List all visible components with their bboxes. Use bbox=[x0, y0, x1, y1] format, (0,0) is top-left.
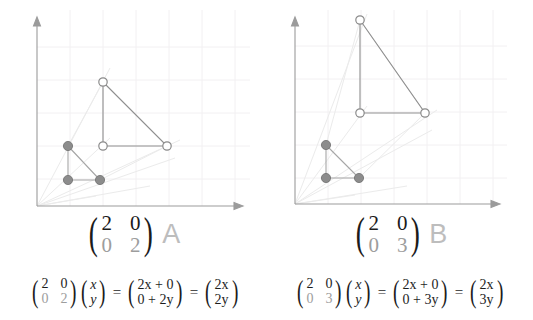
figure-canvas: ( 2 0 0 2 ) A bbox=[0, 0, 533, 320]
paren-close: ) bbox=[144, 217, 153, 251]
paren-close: ) bbox=[364, 280, 370, 304]
equation-B-matrix: 2 0 0 3 bbox=[305, 277, 333, 306]
equals-sign: = bbox=[455, 284, 463, 301]
matrix-B-letter: B bbox=[429, 219, 447, 250]
equation-A-matrix: 2 0 0 2 bbox=[40, 277, 68, 306]
transformed-vertex bbox=[99, 142, 107, 150]
matrix-A: ( 2 0 0 2 ) A bbox=[86, 212, 180, 256]
projection-rays-B bbox=[295, 14, 437, 204]
eqB-result2-top: 2x bbox=[480, 277, 494, 292]
paren-close: ) bbox=[335, 280, 341, 304]
eqB-result1-top: 2x + 0 bbox=[402, 277, 438, 292]
paren-close: ) bbox=[99, 280, 105, 304]
transformed-vertex bbox=[421, 109, 429, 117]
eqB-result2-bottom: 3y bbox=[480, 292, 494, 307]
matrix-B-b: 0 bbox=[397, 212, 408, 234]
paren-open: ( bbox=[32, 280, 38, 304]
equation-A-vector: x y bbox=[89, 277, 97, 307]
panel-transformation-A: ( 2 0 0 2 ) A bbox=[0, 0, 266, 265]
equation-A: ( 2 0 0 2 ) ( x y ) = ( 2x + 0 0 + 2y ) … bbox=[2, 266, 268, 318]
eqB-vector-bottom: y bbox=[355, 292, 361, 307]
paren-close: ) bbox=[231, 280, 237, 304]
panel-transformation-B: ( 2 0 0 3 ) B bbox=[267, 0, 533, 265]
equation-B: ( 2 0 0 3 ) ( x y ) = ( 2x + 0 0 + 3y ) … bbox=[267, 266, 533, 318]
eqB-result1-bottom: 0 + 3y bbox=[402, 292, 438, 307]
eqB-matrix-c: 0 bbox=[306, 292, 313, 307]
equation-A-result2: 2x 2y bbox=[214, 277, 230, 307]
paren-open: ( bbox=[297, 280, 303, 304]
eqA-matrix-d: 2 bbox=[60, 292, 67, 307]
matrix-B-cells: 2 0 0 3 bbox=[367, 212, 408, 256]
paren-close: ) bbox=[441, 280, 447, 304]
paren-open: ( bbox=[346, 280, 352, 304]
paren-open: ( bbox=[81, 280, 87, 304]
matrix-B-d: 3 bbox=[397, 234, 408, 256]
matrix-label-B: ( 2 0 0 3 ) B bbox=[267, 208, 533, 260]
paren-open: ( bbox=[89, 217, 98, 251]
equals-sign: = bbox=[378, 284, 386, 301]
transformed-vertex bbox=[356, 109, 364, 117]
paren-open: ( bbox=[128, 280, 134, 304]
eqA-matrix-b: 0 bbox=[60, 277, 67, 292]
equation-B-vector: x y bbox=[354, 277, 362, 307]
paren-open: ( bbox=[393, 280, 399, 304]
eqA-vector-bottom: y bbox=[90, 292, 96, 307]
eqA-result2-top: 2x bbox=[215, 277, 229, 292]
eqB-matrix-b: 0 bbox=[325, 277, 332, 292]
equation-B-result2: 2x 3y bbox=[479, 277, 495, 307]
matrix-A-letter: A bbox=[162, 219, 180, 250]
eqB-matrix-a: 2 bbox=[306, 277, 313, 292]
matrix-B-a: 2 bbox=[368, 212, 379, 234]
paren-open: ( bbox=[205, 280, 211, 304]
matrix-A-c: 0 bbox=[101, 234, 112, 256]
equals-sign: = bbox=[190, 284, 198, 301]
original-vertex bbox=[95, 175, 104, 184]
original-vertex bbox=[63, 141, 72, 150]
transformed-vertex bbox=[356, 16, 364, 24]
original-vertex bbox=[321, 140, 330, 149]
paren-close: ) bbox=[411, 217, 420, 251]
matrix-A-b: 0 bbox=[130, 212, 141, 234]
matrix-B-c: 0 bbox=[368, 234, 379, 256]
paren-close: ) bbox=[496, 280, 502, 304]
matrix-A-d: 2 bbox=[130, 234, 141, 256]
equals-sign: = bbox=[113, 284, 121, 301]
eqA-matrix-a: 2 bbox=[41, 277, 48, 292]
transformed-shape-B bbox=[356, 16, 429, 117]
plot-B bbox=[267, 0, 533, 215]
eqA-vector-top: x bbox=[90, 277, 96, 292]
eqA-result1-top: 2x + 0 bbox=[137, 277, 173, 292]
paren-close: ) bbox=[70, 280, 76, 304]
matrix-A-cells: 2 0 0 2 bbox=[100, 212, 141, 256]
eqB-vector-top: x bbox=[355, 277, 361, 292]
original-vertex bbox=[354, 173, 363, 182]
transformed-vertex bbox=[99, 78, 107, 86]
paren-close: ) bbox=[176, 280, 182, 304]
paren-open: ( bbox=[470, 280, 476, 304]
original-vertex bbox=[63, 175, 72, 184]
matrix-B: ( 2 0 0 3 ) B bbox=[353, 212, 447, 256]
equation-A-result1: 2x + 0 0 + 2y bbox=[136, 277, 174, 307]
equation-B-result1: 2x + 0 0 + 3y bbox=[401, 277, 439, 307]
eqB-matrix-d: 3 bbox=[325, 292, 332, 307]
plot-A bbox=[0, 0, 266, 215]
eqA-matrix-c: 0 bbox=[41, 292, 48, 307]
transformed-shape-A bbox=[99, 78, 171, 150]
paren-open: ( bbox=[356, 217, 365, 251]
matrix-A-a: 2 bbox=[101, 212, 112, 234]
transformed-vertex bbox=[163, 142, 171, 150]
original-vertex bbox=[321, 173, 330, 182]
eqA-result1-bottom: 0 + 2y bbox=[137, 292, 173, 307]
matrix-label-A: ( 2 0 0 2 ) A bbox=[0, 208, 266, 260]
eqA-result2-bottom: 2y bbox=[215, 292, 229, 307]
